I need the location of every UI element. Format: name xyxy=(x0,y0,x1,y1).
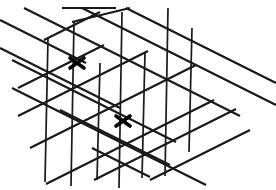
lattice-figure xyxy=(0,0,276,190)
lattice-canvas xyxy=(0,0,276,190)
